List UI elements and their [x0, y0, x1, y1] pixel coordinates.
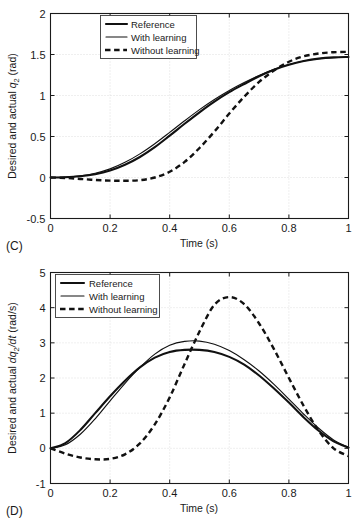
panel-d-ylabel-mid: /dt: [6, 335, 18, 349]
ytick-label-c-3: 1: [39, 90, 45, 102]
panel-c-legend-label-with-learning: With learning: [131, 32, 186, 43]
figure-container: 00.20.40.60.81-0.500.511.52 Desired and …: [0, 0, 361, 529]
curve-c-with-learning: [51, 57, 349, 177]
panel-c-ylabel-suffix: (rad): [6, 53, 18, 78]
ytick-label-d-5: 4: [39, 302, 45, 314]
xtick-label-d-5: 1: [345, 487, 351, 499]
curve-d-with-learning: [51, 341, 349, 449]
ytick-label-d-0: -1: [36, 478, 46, 490]
xtick-label-d-0: 0: [47, 487, 53, 499]
panel-c-curves: [51, 52, 349, 181]
panel-c-position-plot: 00.20.40.60.81-0.500.511.52 Desired and …: [0, 0, 361, 265]
svg-text:Desired and actual dq2/dt (rad: Desired and actual dq2/dt (rad/s): [6, 302, 21, 453]
xtick-label-c-0: 0: [47, 222, 53, 234]
panel-d-legend: Reference With learning Without learning: [56, 275, 160, 318]
xtick-label-c-5: 1: [345, 222, 351, 234]
ytick-label-c-1: 0: [39, 172, 45, 184]
panel-d-letter: (D): [6, 504, 23, 518]
curve-c-reference: [51, 57, 349, 178]
xtick-label-c-1: 0.2: [102, 222, 117, 234]
ytick-label-d-4: 3: [39, 337, 45, 349]
panel-d-legend-label-without-learning: Without learning: [89, 304, 158, 315]
panel-c-legend-label-reference: Reference: [131, 19, 175, 30]
panel-c-legend-label-without-learning: Without learning: [131, 45, 200, 56]
ytick-label-c-5: 2: [39, 8, 45, 20]
ytick-label-d-2: 1: [39, 407, 45, 419]
ytick-label-c-4: 1.5: [30, 49, 45, 61]
panel-d-legend-label-with-learning: With learning: [89, 291, 144, 302]
curve-c-without-learning: [51, 52, 349, 181]
ytick-label-d-3: 2: [39, 372, 45, 384]
panel-d-ylabel-suffix: (rad/s): [6, 302, 18, 335]
panel-d-legend-label-reference: Reference: [89, 278, 133, 289]
panel-d-ylabel-symbol: dq: [6, 351, 18, 363]
ytick-label-c-2: 0.5: [30, 131, 45, 143]
panel-c-letter: (C): [6, 239, 23, 253]
ytick-label-c-0: -0.5: [27, 213, 46, 225]
ytick-label-d-1: 0: [39, 442, 45, 454]
panel-d-curves: [51, 297, 349, 459]
panel-c-ylabel-prefix: Desired and actual: [6, 88, 18, 178]
curve-d-reference: [51, 350, 349, 449]
panel-d-svg: 00.20.40.60.81-1012345 Desired and actua…: [0, 265, 361, 529]
panel-c-xlabel: Time (s): [180, 237, 218, 249]
xtick-label-c-4: 0.8: [281, 222, 296, 234]
panel-c-legend: Reference With learning Without learning: [101, 16, 200, 59]
curve-d-without-learning: [51, 297, 349, 459]
xtick-label-d-4: 0.8: [281, 487, 296, 499]
panel-d-xlabel: Time (s): [180, 502, 218, 514]
xtick-label-c-3: 0.6: [222, 222, 237, 234]
panel-c-svg: 00.20.40.60.81-0.500.511.52 Desired and …: [0, 0, 361, 265]
ytick-label-d-6: 5: [39, 267, 45, 279]
panel-d-ylabel-prefix: Desired and actual: [6, 363, 18, 453]
xtick-label-d-3: 0.6: [222, 487, 237, 499]
panel-d-velocity-plot: 00.20.40.60.81-1012345 Desired and actua…: [0, 265, 361, 529]
svg-text:Desired and actual q2 (rad): Desired and actual q2 (rad): [6, 53, 21, 179]
xtick-label-c-2: 0.4: [162, 222, 177, 234]
panel-c-ylabel: Desired and actual q2 (rad): [6, 53, 21, 179]
xtick-label-d-2: 0.4: [162, 487, 177, 499]
xtick-label-d-1: 0.2: [102, 487, 117, 499]
panel-d-ylabel: Desired and actual dq2/dt (rad/s): [6, 302, 21, 453]
